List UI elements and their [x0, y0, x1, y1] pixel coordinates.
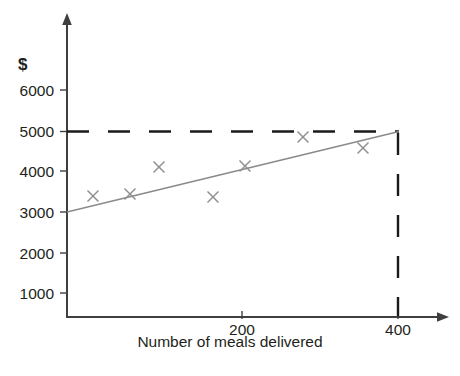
scatter-point	[88, 191, 99, 202]
y-tick-label-2000: 2000	[2, 246, 54, 262]
y-tick-label-1000: 1000	[2, 286, 54, 302]
scatter-point	[125, 189, 136, 200]
scatter-point	[358, 143, 369, 154]
scatter-point	[240, 161, 251, 172]
chart-canvas	[0, 0, 460, 376]
y-axis-title: $	[18, 56, 27, 73]
y-tick-label-6000: 6000	[2, 83, 54, 99]
scatter-point	[298, 132, 309, 143]
x-axis-title: Number of meals delivered	[0, 334, 460, 350]
scatter-point	[208, 192, 219, 203]
y-tick-label-5000: 5000	[2, 124, 54, 140]
y-axis	[62, 13, 72, 317]
chart-container: $ 6000 5000 4000 3000 2000 1000 200 400 …	[0, 0, 460, 376]
y-tick-label-4000: 4000	[2, 164, 54, 180]
y-tick-label-3000: 3000	[2, 205, 54, 221]
scatter-markers	[88, 132, 369, 203]
scatter-point	[154, 162, 165, 173]
line-of-best-fit	[67, 132, 399, 213]
